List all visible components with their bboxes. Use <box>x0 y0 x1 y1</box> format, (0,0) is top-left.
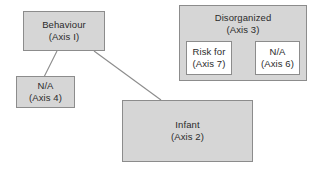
node-na-axis6[interactable]: N/A (Axis 6) <box>255 41 300 75</box>
node-behaviour-title: Behaviour <box>42 19 86 31</box>
node-infant-axis: (Axis 2) <box>171 131 204 143</box>
node-na-axis6-axis: (Axis 6) <box>261 58 294 70</box>
node-disorganized-group[interactable]: Disorganized (Axis 3) Risk for (Axis 7) … <box>179 5 307 81</box>
node-risk-for-axis7[interactable]: Risk for (Axis 7) <box>186 41 232 75</box>
diagram-canvas: Behaviour (Axis I) N/A (Axis 4) Infant (… <box>0 0 321 172</box>
node-behaviour-axis: (Axis I) <box>49 31 79 43</box>
node-na-axis4[interactable]: N/A (Axis 4) <box>16 76 75 108</box>
node-disorganized-header: Disorganized (Axis 3) <box>180 12 306 36</box>
node-disorganized-axis: (Axis 3) <box>180 24 306 36</box>
node-na-axis6-title: N/A <box>269 46 285 58</box>
node-infant-title: Infant <box>175 119 199 131</box>
node-risk-for-axis7-title: Risk for <box>193 46 226 58</box>
node-behaviour[interactable]: Behaviour (Axis I) <box>23 11 105 51</box>
connector-behaviour-to-na-axis4 <box>44 51 57 77</box>
node-disorganized-title: Disorganized <box>180 12 306 24</box>
node-risk-for-axis7-axis: (Axis 7) <box>193 58 226 70</box>
node-na-axis4-title: N/A <box>37 80 53 92</box>
node-infant[interactable]: Infant (Axis 2) <box>122 100 253 162</box>
connector-behaviour-to-infant <box>94 51 161 100</box>
node-na-axis4-axis: (Axis 4) <box>29 92 62 104</box>
